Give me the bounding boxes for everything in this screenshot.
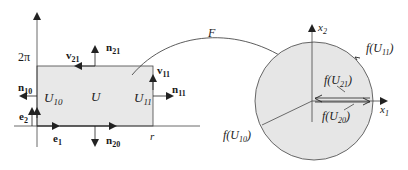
n21-label: n21 — [106, 41, 120, 56]
disk-domain: x2 x1 f(U10) f(U11) f(U20) f(U21) — [223, 21, 393, 160]
v11-label: v11 — [157, 64, 170, 79]
map-label: F — [207, 26, 216, 40]
f-u20-label: f(U20) — [322, 109, 350, 125]
x-tick-label: r — [150, 130, 155, 142]
f-u11-label: f(U11) — [366, 41, 393, 57]
y-tick-label: 2π — [18, 50, 30, 64]
f-u21-label: f(U21) — [324, 73, 352, 89]
region-label: U — [91, 89, 102, 104]
diagram-canvas: 2π r U U10 U11 n10 n11 n20 n21 v11 v21 e… — [0, 0, 408, 170]
rectangle-domain: 2π r U U10 U11 n10 n11 n20 n21 v11 v21 e… — [14, 14, 200, 149]
n10-label: n10 — [18, 81, 32, 96]
f-u10-label: f(U10) — [223, 128, 251, 144]
n11-label: n11 — [172, 83, 186, 98]
x2-label: x2 — [317, 21, 327, 36]
n20-label: n20 — [106, 134, 120, 149]
e1-label: e1 — [53, 132, 62, 147]
e2-label: e2 — [19, 110, 28, 125]
x1-label: x1 — [379, 103, 389, 118]
mapping-diagram: 2π r U U10 U11 n10 n11 n20 n21 v11 v21 e… — [0, 0, 408, 170]
v21-label: v21 — [66, 49, 80, 64]
